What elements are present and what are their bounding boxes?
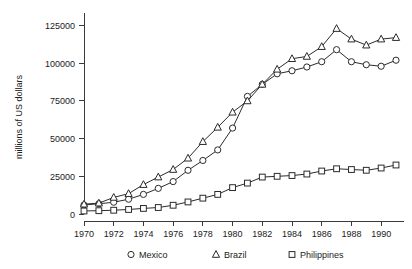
data-point-square-marker (259, 174, 265, 180)
data-point-circle-marker (125, 196, 131, 202)
x-tick-label: 1986 (312, 229, 332, 239)
line-chart-plot: 0250005000075000100000125000 19701972197… (0, 0, 412, 269)
x-tick-label: 1984 (282, 229, 302, 239)
data-point-square-marker (111, 207, 117, 213)
legend-triangle-marker (212, 251, 219, 258)
x-axis-ticks: 1970197219741976197819801982198419861988… (74, 221, 391, 239)
data-point-square-marker (334, 166, 340, 172)
legend-item-philippines: Philippines (289, 250, 344, 260)
data-point-square-marker (289, 173, 295, 179)
data-point-square-marker (393, 162, 399, 168)
data-point-circle-marker (304, 64, 310, 70)
data-point-circle-marker (170, 178, 176, 184)
x-tick-label: 1972 (104, 229, 124, 239)
data-point-square-marker (126, 207, 132, 213)
data-point-triangle-marker (392, 34, 399, 41)
legend-circle-marker (128, 251, 134, 257)
data-point-circle-marker (348, 59, 354, 65)
data-point-square-marker (200, 195, 206, 201)
data-point-triangle-marker (348, 35, 355, 42)
series-line-brazil (84, 29, 396, 205)
data-point-square-marker (155, 205, 161, 211)
data-point-circle-marker (215, 147, 221, 153)
data-point-square-marker (319, 168, 325, 174)
y-tick-label: 25000 (50, 172, 75, 182)
x-tick-label: 1980 (223, 229, 243, 239)
legend-item-brazil: Brazil (212, 250, 246, 260)
series-brazil (80, 25, 399, 207)
data-point-square-marker (378, 165, 384, 171)
data-point-circle-marker (185, 167, 191, 173)
y-tick-label: 0 (70, 210, 75, 220)
series-mexico (81, 47, 399, 208)
series-line-mexico (84, 50, 396, 205)
data-point-triangle-marker (140, 181, 147, 188)
x-tick-label: 1990 (371, 229, 391, 239)
y-tick-label: 50000 (50, 134, 75, 144)
data-point-circle-marker (140, 191, 146, 197)
legend-square-marker (289, 252, 295, 258)
data-point-square-marker (185, 199, 191, 205)
x-tick-label: 1974 (133, 229, 153, 239)
x-tick-label: 1978 (193, 229, 213, 239)
data-point-circle-marker (319, 59, 325, 65)
data-series-layer (80, 25, 399, 214)
y-tick-label: 100000 (45, 59, 75, 69)
data-point-square-marker (245, 180, 251, 186)
data-point-square-marker (230, 185, 236, 191)
data-point-circle-marker (393, 57, 399, 63)
data-point-triangle-marker (303, 53, 310, 60)
data-point-triangle-marker (274, 65, 281, 72)
data-point-square-marker (304, 171, 310, 177)
data-point-triangle-marker (155, 173, 162, 180)
data-point-square-marker (349, 167, 355, 173)
legend-label-mexico: Mexico (139, 250, 168, 260)
data-point-circle-marker (289, 68, 295, 74)
legend-label-brazil: Brazil (224, 250, 247, 260)
legend-item-mexico: Mexico (128, 250, 168, 260)
data-point-square-marker (274, 173, 280, 179)
x-tick-label: 1988 (341, 229, 361, 239)
data-point-triangle-marker (333, 25, 340, 32)
data-point-circle-marker (333, 47, 339, 53)
x-tick-label: 1970 (74, 229, 94, 239)
series-philippines (81, 162, 399, 214)
y-tick-label: 125000 (45, 21, 75, 31)
data-point-triangle-marker (170, 166, 177, 173)
data-point-square-marker (215, 192, 221, 198)
data-point-square-marker (81, 208, 87, 214)
data-point-circle-marker (378, 63, 384, 69)
data-point-triangle-marker (125, 190, 132, 197)
data-point-square-marker (170, 202, 176, 208)
data-point-circle-marker (229, 125, 235, 131)
data-point-circle-marker (200, 157, 206, 163)
legend-label-philippines: Philippines (300, 250, 344, 260)
x-tick-label: 1982 (252, 229, 272, 239)
y-axis-ticks: 0250005000075000100000125000 (45, 21, 84, 219)
x-tick-label: 1976 (163, 229, 183, 239)
data-point-square-marker (141, 206, 147, 212)
y-tick-label: 75000 (50, 96, 75, 106)
chart-figure: millions of US dollars 02500050000750001… (0, 0, 412, 269)
data-point-circle-marker (155, 185, 161, 191)
data-point-square-marker (363, 167, 369, 173)
data-point-square-marker (96, 208, 102, 214)
data-point-circle-marker (363, 62, 369, 68)
chart-legend: MexicoBrazilPhilippines (128, 250, 344, 260)
data-point-triangle-marker (229, 108, 236, 115)
